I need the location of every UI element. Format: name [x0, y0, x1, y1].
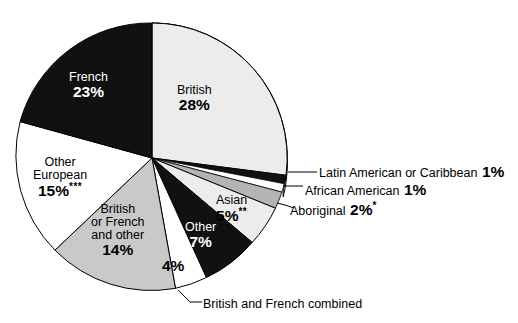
leader-line-british-and-french-combined [178, 290, 202, 302]
pie-chart-graphic [0, 0, 518, 323]
pie-slice-british[interactable] [152, 23, 287, 175]
leader-line-aboriginal [277, 203, 294, 208]
pie-chart-figure: British 28% French 23% Other European 15… [0, 0, 518, 323]
pie-slices [16, 23, 287, 291]
